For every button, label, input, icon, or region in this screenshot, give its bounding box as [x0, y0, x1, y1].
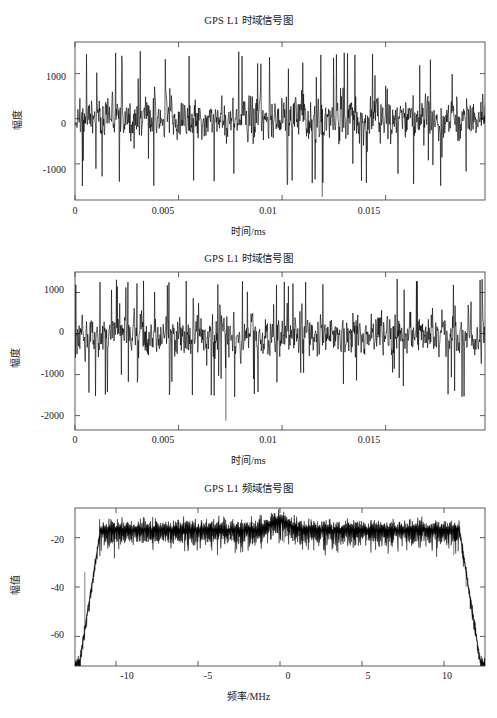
- x-axis-label: 时间/ms: [0, 452, 497, 467]
- x-tick-label: 0: [55, 205, 95, 216]
- x-tick-label: 5: [348, 670, 388, 681]
- chart-panel-time-domain-2: GPS L1 时域信号图 幅度 1000 0 -1000 -2000 0 0.0…: [0, 240, 497, 482]
- chart-panel-frequency-domain: GPS L1 频域信号图 幅值 -20 -40 -60 -10 -5 0 5 1…: [0, 472, 497, 718]
- time-domain-plot-2: [0, 240, 497, 482]
- x-axis-label: 频率/MHz: [0, 688, 497, 703]
- x-tick-label: 10: [427, 670, 467, 681]
- x-tick-label: 0: [268, 670, 308, 681]
- x-tick-label: 0.01: [243, 434, 293, 445]
- x-tick-label: 0.005: [138, 205, 188, 216]
- x-tick-label: 0.015: [344, 205, 394, 216]
- x-tick-label: -10: [107, 670, 147, 681]
- x-tick-label: -5: [188, 670, 228, 681]
- figure-canvas: GPS L1 时域信号图 幅度 1000 0 -1000 0 0.005 0.0…: [0, 0, 497, 718]
- x-axis-label: 时间/ms: [0, 223, 497, 238]
- chart-panel-time-domain-1: GPS L1 时域信号图 幅度 1000 0 -1000 0 0.005 0.0…: [0, 0, 497, 246]
- x-tick-label: 0: [55, 434, 95, 445]
- x-tick-label: 0.01: [243, 205, 293, 216]
- frequency-domain-plot: [0, 472, 497, 718]
- x-tick-label: 0.015: [344, 434, 394, 445]
- x-tick-label: 0.005: [138, 434, 188, 445]
